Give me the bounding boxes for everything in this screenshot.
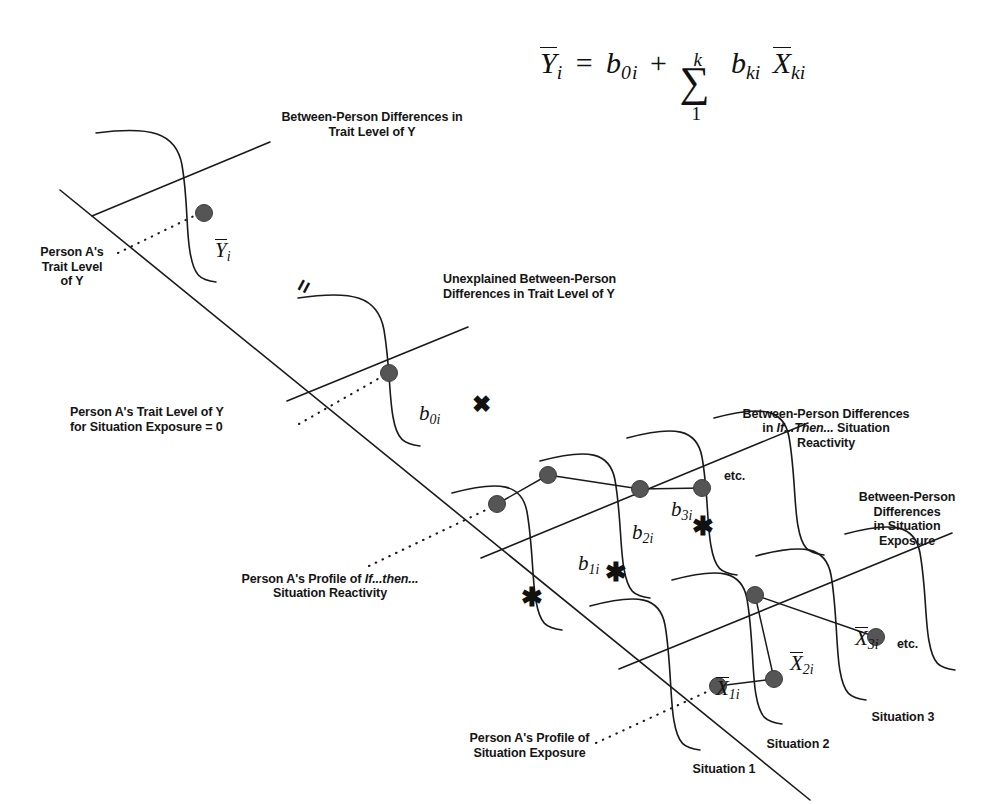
person-a-reactivity-part1: Person A's Profile of	[242, 572, 365, 586]
label-situation-2: Situation 2	[750, 737, 846, 752]
b0i-base: b	[419, 401, 430, 425]
label-exposure-header: Between-Person Differences in Situation …	[832, 490, 982, 548]
label-situation-1: Situation 1	[676, 762, 772, 777]
dot-reactivity-1	[489, 496, 506, 513]
diagram-canvas: Yi = b0i + k ∑ 1 bki Xki Between-Person …	[0, 0, 997, 804]
y-bar-base: Y	[215, 239, 227, 261]
annotation-x-bar-1i: X1i	[716, 676, 740, 703]
operator-star-2: ✱	[605, 560, 627, 586]
equation-b0: b	[606, 46, 621, 79]
dot-reactivity-3	[632, 481, 649, 498]
operator-star-1: ✱	[521, 585, 543, 611]
operator-star-3: ✱	[692, 514, 714, 540]
equation-b-k: b	[731, 46, 746, 79]
dot-intercept	[381, 365, 398, 382]
dot-exposure-2	[766, 671, 783, 688]
label-reactivity-header: Between-Person Differences in If...Then.…	[720, 392, 932, 450]
person-a-reactivity-italic: If...then...	[365, 572, 419, 586]
dot-reactivity-2	[540, 467, 557, 484]
annotation-b0i: b0i	[419, 401, 440, 428]
label-etc-upper: etc.	[724, 469, 764, 484]
b3i-base: b	[671, 497, 682, 521]
brace-b1i	[452, 486, 562, 630]
axis-tick-intercept	[287, 327, 468, 401]
annotation-x-bar-3i: X3i	[855, 626, 879, 653]
x3i-base: X	[855, 627, 868, 649]
dot-exposure-3	[747, 587, 764, 604]
x1i-base: X	[716, 677, 729, 699]
axis-tick-trait	[92, 142, 270, 216]
main-equation: Yi = b0i + k ∑ 1 bki Xki	[540, 46, 805, 84]
label-person-a-trait-zero: Person A's Trait Level of Y for Situatio…	[70, 405, 300, 434]
b1i-base: b	[578, 551, 589, 575]
x2i-base: X	[790, 652, 803, 674]
equation-plus: +	[645, 46, 672, 79]
annotation-y-bar-i: Yi	[215, 238, 231, 265]
annotation-x-bar-2i: X2i	[790, 651, 814, 678]
label-unexplained: Unexplained Between-Person Differences i…	[443, 272, 703, 301]
equation-X: X	[773, 47, 791, 79]
label-person-a-trait: Person A's Trait Level of Y	[12, 245, 132, 289]
dot-trait	[196, 205, 213, 222]
person-a-reactivity-part2: Situation Reactivity	[273, 586, 387, 600]
label-person-a-reactivity: Person A's Profile of If...then... Situa…	[202, 557, 458, 601]
label-etc-lower: etc.	[897, 637, 937, 652]
annotation-b1i: b1i	[578, 551, 599, 578]
operator-times-cross: ✖	[472, 393, 491, 416]
label-situation-3: Situation 3	[855, 710, 951, 725]
label-person-a-exposure: Person A's Profile of Situation Exposure	[442, 731, 617, 760]
equation-sum-symbol: ∑	[679, 58, 709, 106]
brace-x1i	[590, 599, 700, 750]
b2i-base: b	[632, 520, 643, 544]
reactivity-header-italic: If...Then...	[777, 421, 834, 435]
label-trait-level-header: Between-Person Differences in Trait Leve…	[247, 110, 497, 139]
dot-reactivity-4	[694, 480, 711, 497]
equation-lhs-Y: Y	[540, 47, 557, 79]
leader-person-a-trait-zero	[299, 376, 383, 424]
equation-equals: =	[570, 46, 599, 79]
brace-b0i	[298, 295, 420, 446]
annotation-b2i: b2i	[632, 520, 653, 547]
annotation-b3i: b3i	[671, 497, 692, 524]
equation-sum-lower: 1	[691, 103, 701, 125]
